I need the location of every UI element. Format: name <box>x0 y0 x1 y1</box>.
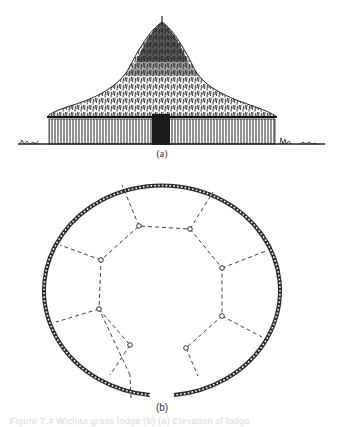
figure-caption: Figure 7.4 Wichita grass lodge (b) (a) E… <box>10 416 340 426</box>
roof-post <box>220 314 225 319</box>
inner-post-ring <box>99 226 222 398</box>
roof-post <box>188 227 193 232</box>
roof-post <box>220 266 225 271</box>
roof-post <box>128 343 133 348</box>
panel-b-label: (b) <box>156 402 168 413</box>
roof-post <box>137 224 142 229</box>
roof-post <box>97 307 102 312</box>
panel-a-label: (a) <box>156 148 167 159</box>
roof-post <box>99 258 104 263</box>
outer-wall-ring <box>44 186 280 395</box>
roof-post <box>184 346 189 351</box>
figure: (a) (b) Figure 7.4 Wichita grass lodge (… <box>0 0 342 427</box>
floor-plan <box>44 185 280 398</box>
doorway <box>152 114 170 145</box>
roundhouse-elevation <box>18 16 325 145</box>
